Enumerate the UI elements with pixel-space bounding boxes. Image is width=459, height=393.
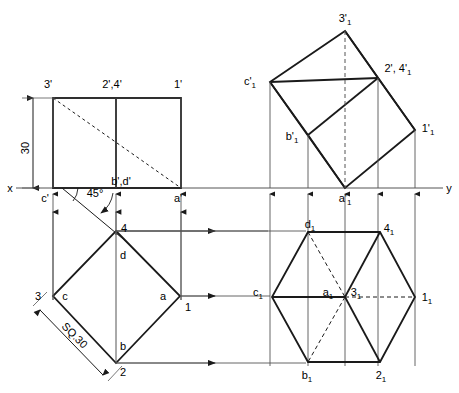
label-3-prime: 3' <box>44 78 52 90</box>
label-b: b <box>120 340 126 352</box>
label-1: 1 <box>185 301 191 313</box>
label-1-prime-1: 1'1 <box>422 122 435 137</box>
upward-projectors-left <box>53 212 181 300</box>
label-a: a <box>160 290 167 302</box>
height-dimension: 30 <box>19 98 55 188</box>
label-3: 3 <box>35 290 41 302</box>
aux-top-view-labels: d1 41 c1 a1 31 11 b1 21 <box>253 218 433 384</box>
label-2-4-prime-1: 2', 4'1 <box>384 62 412 77</box>
label-b-d-prime: b',d' <box>111 175 131 187</box>
label-a-prime: a' <box>174 192 182 204</box>
label-c: c <box>62 290 68 302</box>
drawing-canvas: x y 30 45° <box>0 0 459 393</box>
top-view-labels: 4 d 3 c a 1 b 2 <box>35 222 191 378</box>
label-3-1: 31 <box>351 286 362 301</box>
label-c-prime-1: c'1 <box>244 75 257 90</box>
aux-top-view-outline <box>272 232 415 362</box>
dimension-height-label: 30 <box>19 142 31 154</box>
aux-front-view-outline <box>270 31 415 188</box>
label-d-1: d1 <box>305 218 316 233</box>
label-d: d <box>120 249 126 261</box>
label-a-1: a1 <box>323 286 334 301</box>
axis-label-x: x <box>7 182 13 194</box>
label-b-prime-1: b'1 <box>286 130 299 145</box>
label-4: 4 <box>121 222 127 234</box>
mitre-line-45: 45° <box>62 187 128 243</box>
label-2-1: 21 <box>376 369 387 384</box>
label-c-prime: c' <box>41 192 49 204</box>
label-c-1: c1 <box>253 286 264 301</box>
label-3-prime-1: 3'1 <box>339 12 352 27</box>
axis-label-y: y <box>446 182 452 194</box>
angle-45-label: 45° <box>87 187 104 199</box>
technical-drawing-svg: x y 30 45° <box>0 0 459 393</box>
label-2-4-prime: 2',4' <box>102 78 122 90</box>
vertical-projectors-left <box>53 98 181 300</box>
label-2: 2 <box>120 366 126 378</box>
label-b-1: b1 <box>302 369 313 384</box>
label-4-1: 41 <box>384 222 395 237</box>
side-dimension: SQ.30 <box>33 292 122 381</box>
vertical-projectors-right <box>270 78 415 366</box>
front-view-labels: 3' 2',4' 1' b',d' c' a' <box>41 78 182 204</box>
label-1-1: 11 <box>422 291 433 306</box>
label-1-prime: 1' <box>174 78 182 90</box>
